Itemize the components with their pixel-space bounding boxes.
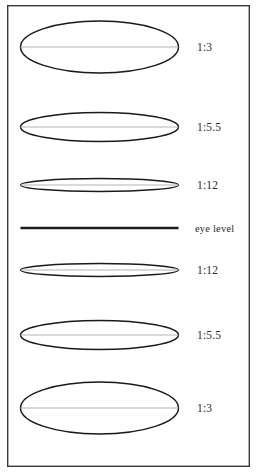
ratio-label: 1:12 [197, 264, 218, 276]
ratio-label: 1:5.5 [197, 329, 221, 341]
ratio-label: 1:12 [197, 179, 218, 191]
ellipse-group [21, 264, 179, 277]
ellipse-group [21, 179, 179, 192]
eye-level-label: eye level [195, 223, 234, 234]
ellipse-group [21, 113, 179, 142]
ellipse-group [21, 321, 179, 350]
ratio-label: 1:5.5 [197, 121, 221, 133]
row-labels: 1:31:5.51:12eye level1:121:5.51:3 [195, 41, 234, 414]
ellipse-group [21, 21, 179, 73]
ratio-label: 1:3 [197, 41, 212, 53]
ellipse-perspective-figure: 1:31:5.51:12eye level1:121:5.51:3 [0, 0, 259, 476]
ellipse-group [21, 382, 179, 434]
ellipse-rows [21, 21, 179, 434]
figure-canvas: 1:31:5.51:12eye level1:121:5.51:3 [0, 0, 259, 476]
ratio-label: 1:3 [197, 402, 212, 414]
